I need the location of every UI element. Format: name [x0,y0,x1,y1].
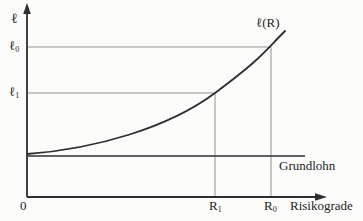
x-tick-r0-sub: 0 [273,205,277,214]
x-axis-label: Risikograde [290,199,353,213]
diagram-canvas [0,0,363,221]
x-tick-r1-base: R [209,198,218,213]
wage-risk-diagram: ℓ ℓ0 ℓ1 ℓ(R) Grundlohn 0 R1 R0 Risikogra… [0,0,363,221]
x-tick-r1-sub: 1 [218,205,222,214]
curve-label: ℓ(R) [256,16,280,30]
y-tick-l0: ℓ0 [9,39,19,53]
y-tick-l1-sub: 1 [15,91,19,100]
y-axis-label: ℓ [11,12,18,26]
y-tick-l0-sub: 0 [15,45,19,54]
y-axis-arrow-icon [23,3,31,14]
y-tick-l1: ℓ1 [9,85,19,99]
x-tick-r0: R0 [264,199,277,213]
origin-label: 0 [20,199,27,213]
grundlohn-label: Grundlohn [279,159,335,173]
x-tick-r1: R1 [209,199,222,213]
x-tick-r0-base: R [264,198,273,213]
